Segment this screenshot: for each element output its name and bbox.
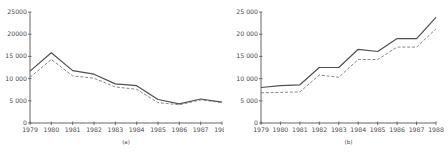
y-tick-label: 25000 — [7, 8, 27, 15]
x-tick-label: 1987 — [409, 126, 425, 133]
x-tick-label: 1981 — [65, 126, 81, 133]
y-tick-label: 20000 — [7, 30, 27, 37]
line-chart-b: 05 00010 00015 00020 00025 0001979198019… — [224, 0, 448, 153]
y-tick-label: 15 000 — [236, 52, 258, 59]
x-tick-label: 1988 — [428, 126, 444, 133]
y-tick-label: 20 000 — [236, 30, 258, 37]
series-line-solid — [261, 17, 436, 87]
x-tick-label: 1984 — [350, 126, 366, 133]
x-tick-label: 1980 — [43, 126, 59, 133]
x-tick-label: 1983 — [107, 126, 123, 133]
y-tick-label: 0 — [254, 119, 258, 126]
x-tick-label: 1985 — [150, 126, 166, 133]
x-tick-label: 1985 — [370, 126, 386, 133]
x-tick-label: 1982 — [86, 126, 102, 133]
x-tick-label: 1979 — [22, 126, 38, 133]
chart-svg-b: 05 00010 00015 00020 00025 0001979198019… — [224, 0, 448, 153]
series-line-solid — [30, 53, 222, 104]
x-tick-label: 1986 — [389, 126, 405, 133]
chart-caption: (a) — [122, 139, 130, 145]
y-tick-label: 10 000 — [236, 75, 258, 82]
y-tick-label: 10 000 — [5, 75, 27, 82]
y-tick-label: 25 000 — [236, 8, 258, 15]
y-tick-label: 0 — [23, 119, 27, 126]
x-tick-label: 1988 — [214, 126, 224, 133]
chart-caption: (b) — [345, 139, 353, 145]
y-tick-label: 15 000 — [5, 52, 27, 59]
x-tick-label: 1982 — [311, 126, 327, 133]
x-tick-label: 1987 — [193, 126, 209, 133]
line-chart-a: 05 00010 00015 0002000025000197919801981… — [0, 0, 224, 153]
x-tick-label: 1980 — [273, 126, 289, 133]
chart-svg-a: 05 00010 00015 0002000025000197919801981… — [0, 0, 224, 153]
x-tick-label: 1981 — [292, 126, 308, 133]
x-tick-label: 1979 — [253, 126, 269, 133]
x-tick-label: 1983 — [331, 126, 347, 133]
x-tick-label: 1986 — [171, 126, 187, 133]
y-tick-label: 5 000 — [240, 97, 258, 104]
y-tick-label: 5 000 — [9, 97, 27, 104]
series-line-dashed — [30, 60, 222, 105]
x-tick-label: 1984 — [129, 126, 145, 133]
